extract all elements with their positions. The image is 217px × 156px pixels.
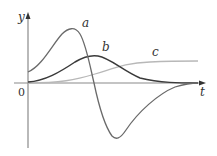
curve-b <box>28 56 198 83</box>
diagram-canvas <box>0 0 217 156</box>
origin-label: 0 <box>18 87 25 98</box>
x-axis-label: t <box>200 86 205 98</box>
curve-c-label: c <box>152 46 159 58</box>
curve-a-label: a <box>82 17 89 29</box>
y-axis-arrow-icon <box>26 12 31 19</box>
curve-c <box>28 61 198 83</box>
curve-b-label: b <box>102 41 110 53</box>
diagram-figure: y 0 t a b c <box>0 0 217 156</box>
y-axis-label: y <box>18 11 25 23</box>
